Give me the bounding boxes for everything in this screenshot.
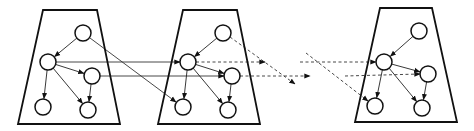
- node-d: [35, 99, 51, 115]
- panel-1: [18, 10, 120, 124]
- edge-c-e: [89, 84, 91, 102]
- edge-b-e: [53, 68, 82, 103]
- edge-c-e: [423, 82, 426, 100]
- edge-b-e: [389, 68, 416, 101]
- node-b: [180, 54, 196, 70]
- edge-a-b: [390, 36, 413, 56]
- panel-2: [158, 10, 260, 124]
- trapezoid-frame: [18, 10, 120, 124]
- node-d: [175, 99, 191, 115]
- node-d: [367, 98, 383, 114]
- edge-a-b: [195, 38, 217, 56]
- node-e: [414, 100, 430, 116]
- edge-b-d: [184, 70, 187, 99]
- node-c: [84, 68, 100, 84]
- node-a: [411, 23, 427, 39]
- edge-b-e: [193, 68, 222, 103]
- edge-b-c: [392, 64, 420, 72]
- trapezoid-frame: [158, 10, 260, 124]
- node-c: [420, 66, 436, 82]
- edge-c-e: [229, 84, 231, 102]
- node-b: [40, 54, 56, 70]
- node-b: [376, 54, 392, 70]
- node-e: [80, 102, 96, 118]
- node-c: [224, 68, 240, 84]
- dashed-link-8: [306, 53, 368, 101]
- node-a: [215, 25, 231, 41]
- dashed-link-7: [345, 74, 420, 76]
- diagram-canvas: [0, 0, 474, 131]
- solid-link-2: [90, 38, 176, 102]
- panel-3: [355, 8, 457, 122]
- node-a: [75, 25, 91, 41]
- edge-a-b: [55, 38, 77, 56]
- edge-b-c: [56, 64, 84, 73]
- edge-b-c: [196, 64, 224, 73]
- node-e: [220, 102, 236, 118]
- panels: [18, 8, 457, 124]
- cross-links: [56, 37, 420, 102]
- edge-b-d: [44, 70, 47, 99]
- edge-b-d: [377, 70, 383, 98]
